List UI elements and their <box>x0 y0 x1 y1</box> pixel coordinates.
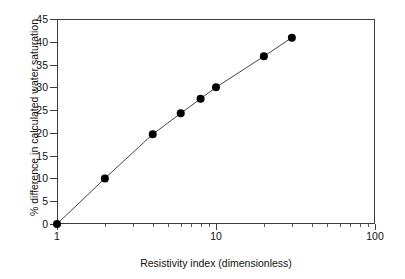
x-tick-minor <box>327 224 328 227</box>
x-tick-minor <box>340 224 341 227</box>
x-tick-minor <box>168 224 169 227</box>
x-tick-minor <box>312 224 313 227</box>
chart-figure: 051015202530354045 110100 % difference i… <box>0 0 405 279</box>
x-tick-minor <box>105 224 106 227</box>
x-tick-minor <box>209 224 210 227</box>
x-tick-minor <box>360 224 361 227</box>
x-tick-minor <box>264 224 265 227</box>
plot-area <box>57 19 375 224</box>
x-tick-minor <box>368 224 369 227</box>
x-tick-label: 1 <box>37 231 77 242</box>
x-tick-minor <box>181 224 182 227</box>
x-tick-minor <box>191 224 192 227</box>
y-axis-title: % difference in calculated water saturat… <box>29 0 40 243</box>
x-tick-minor <box>201 224 202 227</box>
x-tick-minor <box>350 224 351 227</box>
x-tick-label: 10 <box>196 231 236 242</box>
x-axis-title: Resistivity index (dimensionless) <box>57 258 375 269</box>
x-tick-minor <box>153 224 154 227</box>
x-tick-minor <box>292 224 293 227</box>
x-tick-label: 100 <box>355 231 395 242</box>
x-tick-minor <box>133 224 134 227</box>
